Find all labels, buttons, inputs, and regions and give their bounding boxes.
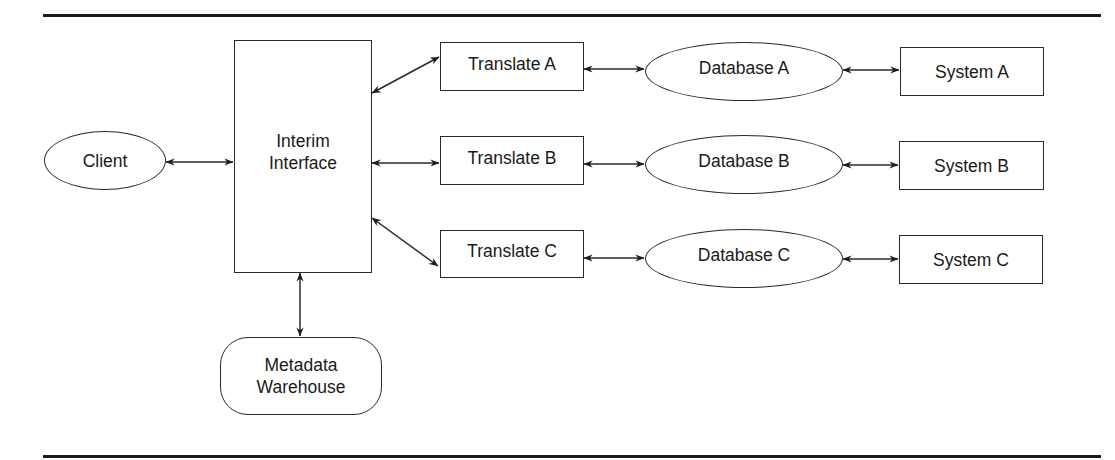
system-c-label: System C (933, 249, 1009, 271)
metadata-warehouse-label: Metadata Warehouse (257, 354, 346, 398)
system-b-label: System B (934, 155, 1009, 177)
interim-interface-node: Interim Interface (234, 40, 372, 273)
system-b-node: System B (899, 141, 1044, 190)
translate-b-node: Translate B (440, 136, 584, 185)
translate-b-label: Translate B (468, 147, 557, 169)
translate-a-node: Translate A (440, 42, 584, 91)
system-a-node: System A (900, 47, 1044, 96)
database-a-node: Database A (645, 42, 843, 101)
database-b-node: Database B (645, 135, 843, 194)
system-c-node: System C (899, 235, 1043, 284)
interim-interface-label: Interim Interface (269, 130, 337, 174)
client-node: Client (44, 131, 166, 190)
translate-c-label: Translate C (467, 240, 557, 262)
database-a-label: Database A (699, 57, 789, 79)
metadata-warehouse-node: Metadata Warehouse (220, 337, 382, 415)
translate-a-label: Translate A (468, 53, 556, 75)
edge-interim-translate-a (372, 57, 439, 93)
client-label: Client (83, 150, 128, 172)
database-c-node: Database C (645, 229, 843, 288)
database-c-label: Database C (698, 244, 790, 266)
database-b-label: Database B (698, 150, 789, 172)
translate-c-node: Translate C (440, 230, 584, 278)
edge-interim-translate-c (372, 218, 438, 266)
system-a-label: System A (935, 61, 1009, 83)
